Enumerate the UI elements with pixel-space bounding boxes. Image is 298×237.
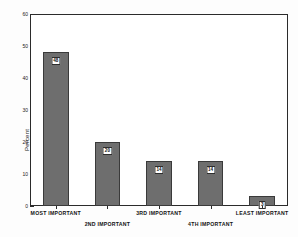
y-tick-label-30: 30 [22, 107, 28, 113]
y-tick-label-50: 50 [22, 43, 28, 49]
bar-value-label: 48 [51, 57, 60, 65]
x-tick-2 [159, 206, 160, 209]
x-tick-1 [107, 206, 108, 209]
y-tick-label-40: 40 [22, 75, 28, 81]
bar-value-label: 14 [154, 166, 163, 174]
bar-chart: Percent 60 50 40 30 20 10 0 48 20 14 14 … [0, 0, 298, 237]
y-tick-label-20: 20 [22, 139, 28, 145]
y-tick-label-10: 10 [22, 171, 28, 177]
x-label-2nd-important: 2ND IMPORTANT [73, 221, 143, 228]
bar-3rd-important: 14 [146, 161, 172, 206]
x-tick-3 [211, 206, 212, 209]
y-tick-label-60: 60 [22, 11, 28, 17]
x-label-least-important: LEAST IMPORTANT [227, 210, 297, 217]
x-label-3rd-important: 3RD IMPORTANT [124, 210, 194, 217]
bar-most-important: 48 [43, 52, 69, 206]
x-tick-4 [262, 206, 263, 209]
y-tick-0: 0 [30, 206, 34, 207]
x-tick-0 [56, 206, 57, 209]
bar-least-important: 3 [249, 196, 275, 206]
bar-value-label: 14 [206, 166, 215, 174]
x-label-most-important: MOST IMPORTANT [21, 210, 91, 217]
bar-value-label: 20 [103, 147, 112, 155]
bar-4th-important: 14 [198, 161, 224, 206]
bar-2nd-important: 20 [95, 142, 121, 206]
y-tick-label-0: 0 [25, 203, 28, 209]
x-label-4th-important: 4TH IMPORTANT [176, 221, 246, 228]
